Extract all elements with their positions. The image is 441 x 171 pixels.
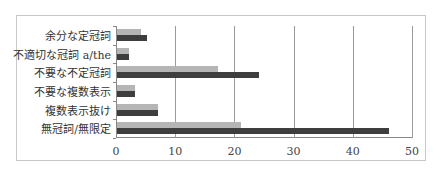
x-tick-label: 0 [113, 145, 120, 158]
x-tick-label: 50 [405, 145, 419, 158]
gridline [294, 26, 295, 138]
category-label: 不要な不定冠詞 [34, 64, 111, 80]
category-label: 不要な複数表示 [34, 83, 111, 99]
y-tick [113, 26, 116, 27]
x-axis [116, 137, 412, 138]
gridline [412, 26, 413, 138]
y-axis [116, 26, 117, 138]
y-tick [113, 101, 116, 102]
y-tick [113, 45, 116, 46]
y-tick [113, 119, 116, 120]
category-label: 余分な定冠詞 [45, 27, 111, 43]
y-tick [113, 138, 116, 139]
x-tick-label: 40 [346, 145, 360, 158]
bar [117, 128, 389, 134]
x-tick-label: 20 [227, 145, 241, 158]
plot-area [116, 26, 412, 138]
bar [117, 110, 158, 116]
gridline [234, 26, 235, 138]
gridline [175, 26, 176, 138]
bar [117, 54, 129, 60]
category-label: 複数表示抜け [45, 102, 111, 118]
x-tick-label: 10 [168, 145, 182, 158]
bar [117, 35, 147, 41]
y-tick [113, 63, 116, 64]
bar [117, 72, 259, 78]
category-label: 不適切な冠詞 a/the [13, 46, 111, 62]
x-tick-label: 30 [287, 145, 301, 158]
category-label: 無冠詞/無限定 [41, 120, 111, 136]
y-tick [113, 82, 116, 83]
bar [117, 91, 135, 97]
gridline [353, 26, 354, 138]
